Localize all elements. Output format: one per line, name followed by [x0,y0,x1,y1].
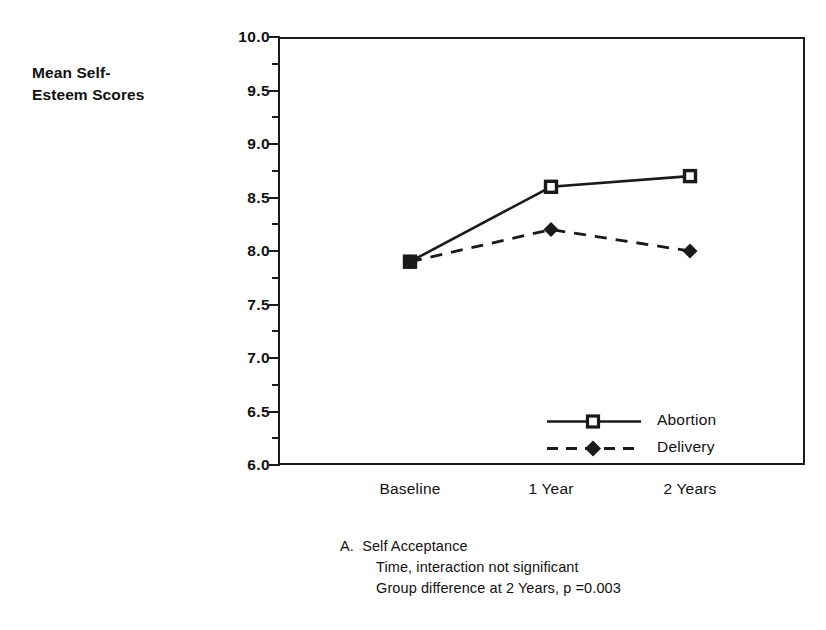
y-tick-label: 6.5 [210,403,270,421]
y-tick-label: 6.0 [210,456,270,474]
y-tick-label: 9.0 [210,135,270,153]
caption-line-2: Time, interaction not significant [340,557,621,578]
caption-line-3: Group difference at 2 Years, p =0.003 [340,578,621,599]
plot-area [278,37,805,465]
legend-sample-solid-open-square-icon [545,408,643,435]
chart-figure: Mean Self- Esteem Scores 10.09.59.08.58.… [0,0,826,630]
x-tick-label: 1 Year [528,480,573,498]
legend-item-delivery: Delivery [545,435,760,462]
y-tick-label: 10.0 [210,28,270,46]
legend-item-abortion: Abortion [545,408,760,435]
caption-line-1: A. Self Acceptance [340,536,621,557]
legend-label-abortion: Abortion [657,411,716,429]
legend-label-delivery: Delivery [657,438,715,456]
legend-sample-dashed-filled-diamond-icon [545,435,643,462]
x-tick-label: 2 Years [663,480,716,498]
y-tick-label: 7.5 [210,296,270,314]
chart-legend: Abortion Delivery [545,408,760,462]
y-tick-label: 8.0 [210,242,270,260]
figure-caption: A. Self Acceptance Time, interaction not… [340,536,621,599]
y-tick-label: 9.5 [210,82,270,100]
y-axis-title-line-1: Mean Self- [32,62,202,84]
y-axis-title: Mean Self- Esteem Scores [32,62,202,106]
x-tick-label: Baseline [379,480,440,498]
y-tick-label: 8.5 [210,189,270,207]
y-tick-label: 7.0 [210,349,270,367]
y-axis-title-line-2: Esteem Scores [32,84,202,106]
